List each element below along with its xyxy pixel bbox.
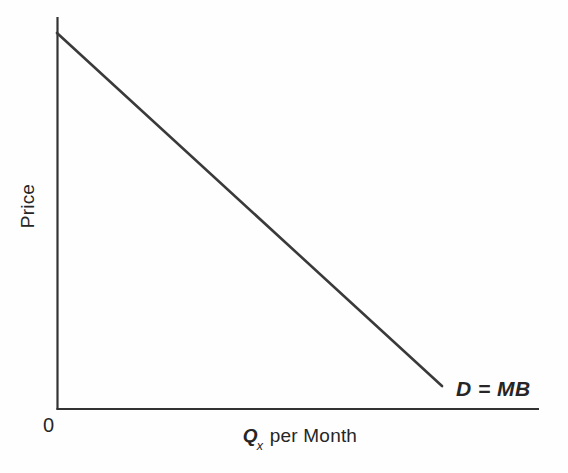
- demand-curve-label: D = MB: [456, 377, 531, 401]
- demand-marginal-benefit-figure: Price 0 Qx per Month D = MB: [0, 0, 568, 473]
- y-axis-label: Price: [0, 160, 56, 252]
- x-axis-label-subscript: x: [257, 439, 263, 453]
- origin-label: 0: [43, 414, 54, 437]
- x-axis-label-suffix: per Month: [264, 425, 357, 446]
- y-axis-label-text: Price: [17, 184, 39, 228]
- plot-area: [0, 0, 568, 473]
- x-axis-label: Qx per Month: [218, 425, 382, 450]
- x-axis-label-symbol: Q: [243, 425, 258, 446]
- demand-curve-line: [57, 33, 442, 386]
